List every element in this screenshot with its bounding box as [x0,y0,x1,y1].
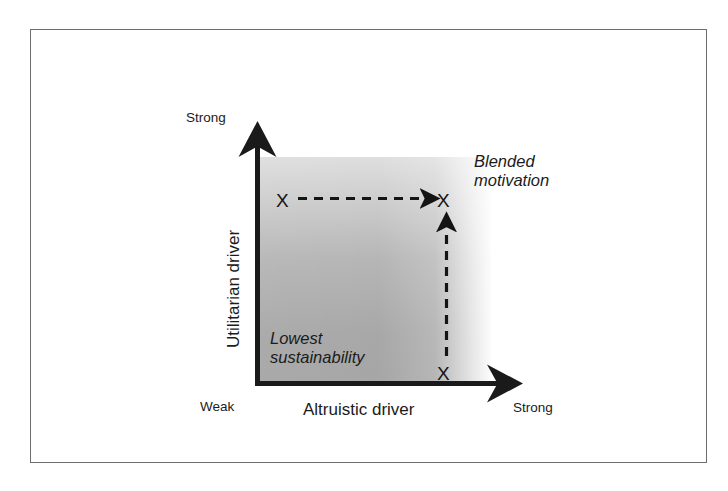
x-axis-weak-label: Weak [200,399,234,415]
marker-high-altruistic: X [437,363,450,385]
figure-screenshot: X X X Strong Weak Strong Utilitarian dri… [0,0,728,491]
annotation-blended-motivation-line1: Blended [474,152,549,171]
plot-area: X X X Strong Weak Strong Utilitarian dri… [0,0,728,491]
annotation-lowest-sustainability: Lowest sustainability [270,329,364,368]
marker-blended-motivation: X [437,190,450,212]
annotation-lowest-sustainability-line1: Lowest [270,329,364,348]
annotation-blended-motivation-line2: motivation [474,171,549,190]
annotation-lowest-sustainability-line2: sustainability [270,348,364,367]
x-axis-strong-label: Strong [513,400,553,416]
annotation-blended-motivation: Blended motivation [474,152,549,191]
marker-high-utilitarian: X [276,190,289,212]
x-axis-title: Altruistic driver [303,400,414,420]
y-axis-strong-label: Strong [186,110,226,126]
y-axis-title: Utilitarian driver [206,188,226,348]
y-axis-title-text: Utilitarian driver [224,230,244,348]
